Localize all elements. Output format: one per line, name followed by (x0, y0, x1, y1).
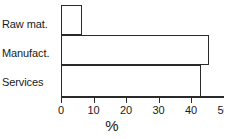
bar-services (61, 65, 201, 97)
x-tick-label: 0 (48, 104, 74, 116)
bar-chart: Raw mat. Manufact. Services 01020304050 … (0, 0, 224, 139)
x-axis-title: % (0, 118, 224, 134)
x-tick-label: 40 (178, 104, 204, 116)
x-tick-label: 50 (211, 104, 225, 116)
bar-manufact (61, 35, 209, 65)
value-axis-line (61, 96, 224, 98)
category-label-raw-mat: Raw mat. (2, 19, 58, 30)
bar-raw-mat (61, 5, 82, 35)
category-label-manufact: Manufact. (2, 48, 58, 59)
x-tick-mark (159, 97, 160, 103)
x-tick-label: 30 (146, 104, 172, 116)
plot-area (61, 5, 224, 97)
x-tick-label: 10 (81, 104, 107, 116)
x-tick-mark (126, 97, 127, 103)
x-tick-mark (191, 97, 192, 103)
x-tick-label: 20 (113, 104, 139, 116)
x-tick-mark (224, 97, 225, 103)
category-label-services: Services (2, 77, 58, 88)
x-tick-mark (94, 97, 95, 103)
x-tick-mark (61, 97, 62, 103)
